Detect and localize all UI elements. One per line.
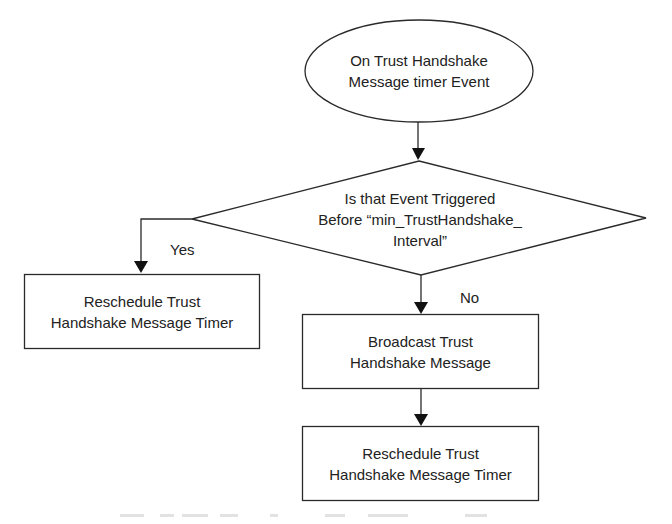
broadcast-line-1: Broadcast Trust — [368, 331, 473, 352]
arrowhead-icon — [412, 148, 425, 160]
decision-node-line-2: Before “min_TrustHandshake_ — [318, 209, 522, 230]
broadcast-line-2: Handshake Message — [350, 352, 491, 373]
start-node-line-1: On Trust Handshake — [350, 50, 488, 71]
figure-caption-cropped — [120, 514, 560, 524]
arrowhead-icon — [414, 302, 428, 314]
reschedule-no-line-1: Reschedule Trust — [362, 443, 479, 464]
start-node: On Trust Handshake Message timer Event — [305, 22, 533, 120]
reschedule-yes-line-2: Handshake Message Timer — [51, 312, 234, 333]
reschedule-no-line-2: Handshake Message Timer — [329, 464, 512, 485]
decision-node-line-1: Is that Event Triggered — [345, 188, 496, 209]
reschedule-no-node: Reschedule Trust Handshake Message Timer — [303, 427, 538, 500]
decision-node: Is that Event Triggered Before “min_Trus… — [260, 180, 580, 258]
arrowhead-icon — [134, 261, 148, 273]
start-node-line-2: Message timer Event — [349, 71, 490, 92]
decision-node-line-3: Interval” — [393, 230, 447, 251]
no-label: No — [460, 289, 479, 306]
yes-label: Yes — [170, 241, 194, 258]
broadcast-node: Broadcast Trust Handshake Message — [303, 315, 538, 388]
arrowhead-icon — [414, 414, 428, 426]
reschedule-yes-line-1: Reschedule Trust — [84, 291, 201, 312]
reschedule-yes-node: Reschedule Trust Handshake Message Timer — [25, 275, 259, 348]
